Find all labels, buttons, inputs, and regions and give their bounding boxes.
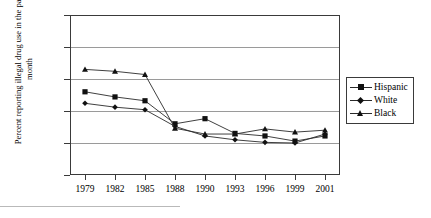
chart-legend: Hispanic White Black [346,77,414,124]
x-tick-mark [325,175,326,180]
x-tick-mark [145,175,146,180]
legend-label: Black [372,108,396,119]
y-tick-mark [64,175,70,176]
legend-item-black[interactable]: Black [350,107,408,120]
diamond-marker-icon [350,95,372,106]
y-tick-mark [64,79,70,80]
y-axis-title: Percent reporting illegal drug use in th… [13,0,35,149]
triangle-marker-icon [350,108,372,119]
x-tick-mark [85,175,86,180]
square-marker-icon [350,82,372,93]
y-tick-mark [64,143,70,144]
gridline [71,79,339,80]
plot-area [70,15,340,175]
gridline [71,143,339,144]
chart-figure: Percent reporting illegal drug use in th… [0,0,431,218]
legend-label: White [372,95,397,106]
y-tick-mark [64,47,70,48]
legend-item-white[interactable]: White [350,94,408,107]
x-tick-mark [115,175,116,180]
y-tick-mark [64,15,70,16]
footer-divider [0,206,180,207]
x-tick-mark [265,175,266,180]
legend-label: Hispanic [372,82,408,93]
x-tick-mark [235,175,236,180]
legend-item-hispanic[interactable]: Hispanic [350,81,408,94]
x-tick-mark [295,175,296,180]
gridline [71,111,339,112]
gridline [71,47,339,48]
y-tick-mark [64,111,70,112]
x-tick-mark [205,175,206,180]
x-tick-label: 2001 [305,184,345,194]
x-tick-mark [175,175,176,180]
